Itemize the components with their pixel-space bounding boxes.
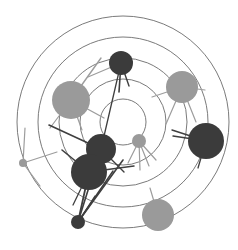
- ring-0: [17, 16, 229, 228]
- graph-node-center-small-gray[interactable]: [132, 134, 146, 148]
- graph-node-bottom-gray[interactable]: [142, 199, 174, 231]
- graph-node-upper-left-gray[interactable]: [52, 81, 90, 119]
- graph-edge: [23, 163, 40, 186]
- graph-canvas[interactable]: [0, 0, 238, 250]
- graph-node-upper-right-gray[interactable]: [166, 71, 198, 103]
- graph-edge: [23, 152, 57, 163]
- graph-node-inner-dark-lower[interactable]: [71, 154, 107, 190]
- graph-node-right-dark[interactable]: [188, 123, 224, 159]
- concentric-rings-layer: [17, 16, 229, 228]
- graph-node-far-left-small[interactable]: [19, 159, 27, 167]
- graph-node-top-dark[interactable]: [109, 51, 133, 75]
- graph-node-bottom-small-dark[interactable]: [71, 215, 85, 229]
- graph-edge: [23, 128, 25, 163]
- radial-network-visualization: [0, 0, 238, 250]
